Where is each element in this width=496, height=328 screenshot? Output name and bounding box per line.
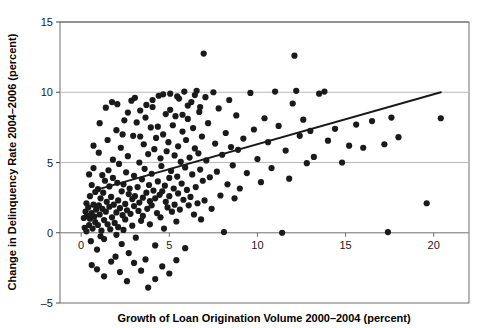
data-point bbox=[159, 188, 165, 194]
data-point bbox=[258, 179, 264, 185]
data-point bbox=[91, 213, 97, 219]
x-tick-label-10: 10 bbox=[251, 239, 263, 251]
data-point bbox=[157, 214, 163, 220]
data-point bbox=[121, 117, 127, 123]
data-point bbox=[321, 88, 327, 94]
data-point bbox=[217, 192, 223, 198]
data-point bbox=[178, 159, 184, 165]
data-point bbox=[97, 211, 103, 217]
data-point bbox=[132, 95, 138, 101]
data-point bbox=[171, 202, 177, 208]
data-point bbox=[233, 112, 239, 118]
data-point bbox=[251, 126, 257, 132]
data-point bbox=[290, 100, 296, 106]
data-point bbox=[97, 120, 103, 126]
data-point bbox=[223, 130, 229, 136]
data-point bbox=[149, 104, 155, 110]
data-point bbox=[182, 245, 188, 251]
data-point bbox=[132, 193, 138, 199]
data-point bbox=[131, 203, 137, 209]
data-point bbox=[173, 218, 179, 224]
data-point bbox=[129, 223, 135, 229]
scatter-plot-figure: –5051015 05101520 Growth of Loan Origina… bbox=[0, 0, 496, 328]
data-point bbox=[169, 209, 175, 215]
data-point bbox=[179, 128, 185, 134]
data-point bbox=[201, 197, 207, 203]
data-point bbox=[165, 139, 171, 145]
data-point bbox=[388, 114, 394, 120]
data-point bbox=[113, 232, 119, 238]
data-point bbox=[293, 88, 299, 94]
data-point bbox=[268, 165, 274, 171]
data-point bbox=[113, 127, 119, 133]
data-point bbox=[191, 211, 197, 217]
data-point bbox=[300, 117, 306, 123]
data-point bbox=[228, 144, 234, 150]
data-point bbox=[109, 99, 115, 105]
data-point bbox=[226, 97, 232, 103]
data-point bbox=[201, 51, 207, 57]
data-point bbox=[115, 224, 121, 230]
data-point bbox=[90, 143, 96, 149]
data-point bbox=[114, 101, 120, 107]
y-axis-title: Change in Delinquency Rate 2004–2006 (pe… bbox=[6, 33, 18, 290]
y-tick-label-0: 0 bbox=[47, 227, 53, 239]
data-point bbox=[166, 193, 172, 199]
data-point bbox=[142, 256, 148, 262]
data-point bbox=[230, 162, 236, 168]
y-tick-label-5: 5 bbox=[47, 157, 53, 169]
data-point bbox=[137, 107, 143, 113]
data-point bbox=[395, 134, 401, 140]
data-point bbox=[122, 216, 128, 222]
data-point bbox=[158, 163, 164, 169]
data-point bbox=[119, 241, 125, 247]
data-point bbox=[149, 97, 155, 103]
data-point bbox=[110, 175, 116, 181]
data-point bbox=[136, 159, 142, 165]
x-tick-label-20: 20 bbox=[428, 239, 440, 251]
data-point bbox=[149, 202, 155, 208]
data-point bbox=[90, 225, 96, 231]
data-point bbox=[127, 185, 133, 191]
data-point bbox=[174, 173, 180, 179]
data-point bbox=[207, 174, 213, 180]
data-point bbox=[163, 199, 169, 205]
chart-canvas: –5051015 05101520 Growth of Loan Origina… bbox=[0, 0, 496, 328]
data-point bbox=[137, 133, 143, 139]
data-point bbox=[85, 204, 91, 210]
data-point bbox=[166, 270, 172, 276]
data-point bbox=[353, 121, 359, 127]
data-point bbox=[205, 120, 211, 126]
data-point bbox=[187, 194, 193, 200]
data-point bbox=[221, 229, 227, 235]
data-point bbox=[151, 146, 157, 152]
data-point bbox=[134, 119, 140, 125]
data-point bbox=[181, 88, 187, 94]
data-point bbox=[160, 91, 166, 97]
data-point bbox=[102, 178, 108, 184]
data-point bbox=[193, 184, 199, 190]
data-point bbox=[346, 143, 352, 149]
data-point bbox=[112, 254, 118, 260]
data-point bbox=[254, 156, 260, 162]
data-point bbox=[135, 208, 141, 214]
data-point bbox=[240, 136, 246, 142]
data-point bbox=[122, 201, 128, 207]
data-point bbox=[184, 187, 190, 193]
data-point bbox=[133, 235, 139, 241]
data-point bbox=[316, 91, 322, 97]
data-point bbox=[89, 182, 95, 188]
data-point bbox=[198, 216, 204, 222]
data-point bbox=[118, 145, 124, 151]
x-tick-label-0: 0 bbox=[78, 239, 84, 251]
data-point bbox=[105, 137, 111, 143]
data-point bbox=[189, 171, 195, 177]
data-point bbox=[86, 171, 92, 177]
data-point bbox=[186, 154, 192, 160]
data-point bbox=[125, 153, 131, 159]
data-point bbox=[179, 112, 185, 118]
data-point bbox=[311, 154, 317, 160]
data-point bbox=[155, 124, 161, 130]
data-point bbox=[185, 116, 191, 122]
data-point bbox=[199, 133, 205, 139]
